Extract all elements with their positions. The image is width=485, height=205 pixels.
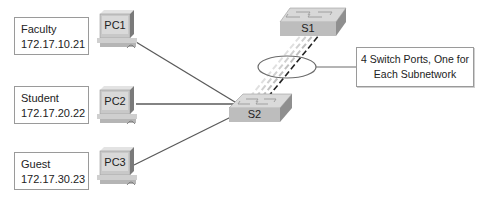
faculty-group-label: Faculty (21, 22, 82, 37)
link-pc3-s2 (134, 116, 233, 165)
pc1-label: PC1 (100, 19, 130, 31)
guest-ip-label: 172.17.30.23 (21, 172, 82, 187)
switch-s2-label: S2 (229, 108, 280, 120)
callout-line1: 4 Switch Ports, One for (361, 52, 469, 67)
faculty-ip-label: 172.17.10.21 (21, 37, 82, 52)
faculty-info-box: Faculty 172.17.10.21 (14, 17, 89, 55)
pc3-label: PC3 (100, 156, 130, 168)
trunk-links (250, 34, 320, 97)
student-group-label: Student (21, 91, 82, 106)
trunk-callout: 4 Switch Ports, One for Each Subnetwork (356, 47, 474, 87)
student-ip-label: 172.17.20.22 (21, 106, 82, 121)
student-info-box: Student 172.17.20.22 (14, 86, 89, 124)
guest-group-label: Guest (21, 157, 82, 172)
guest-info-box: Guest 172.17.30.23 (14, 152, 89, 190)
pc2-label: PC2 (100, 95, 130, 107)
switch-s1-label: S1 (280, 22, 336, 34)
callout-line2: Each Subnetwork (361, 67, 469, 82)
